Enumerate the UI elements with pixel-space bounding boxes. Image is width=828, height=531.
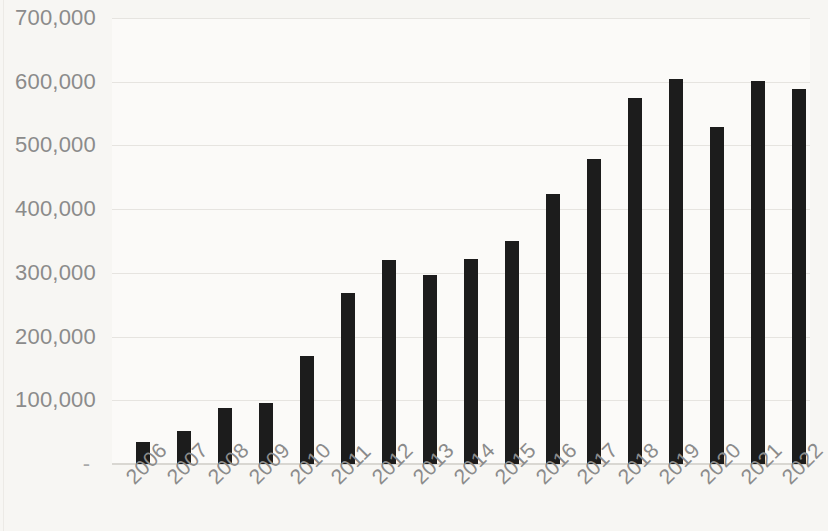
y-tick-label: 300,000 — [15, 260, 96, 286]
bar-2011[interactable] — [341, 293, 355, 464]
y-tick-label: 200,000 — [15, 324, 96, 350]
bar-2014[interactable] — [464, 259, 478, 464]
y-tick-label: 600,000 — [15, 69, 96, 95]
y-tick-label: 500,000 — [15, 132, 96, 158]
bar-2015[interactable] — [505, 241, 519, 464]
y-tick-label: 700,000 — [15, 5, 96, 31]
y-axis: -100,000200,000300,000400,000500,000600,… — [0, 0, 112, 531]
bar-2017[interactable] — [587, 159, 601, 464]
bar-2021[interactable] — [751, 81, 765, 464]
bar-2019[interactable] — [669, 79, 683, 464]
bar-2016[interactable] — [546, 194, 560, 464]
y-tick-label: - — [83, 451, 90, 477]
y-tick-label: 100,000 — [15, 387, 96, 413]
bar-2020[interactable] — [710, 127, 724, 464]
bar-2018[interactable] — [628, 98, 642, 464]
bar-2022[interactable] — [792, 89, 806, 464]
bars-layer — [112, 18, 810, 464]
bar-2013[interactable] — [423, 275, 437, 464]
plot-area — [112, 18, 810, 464]
bar-2012[interactable] — [382, 260, 396, 464]
x-axis: 2006200720082009201020112012201320142015… — [112, 464, 810, 531]
y-tick-label: 400,000 — [15, 196, 96, 222]
